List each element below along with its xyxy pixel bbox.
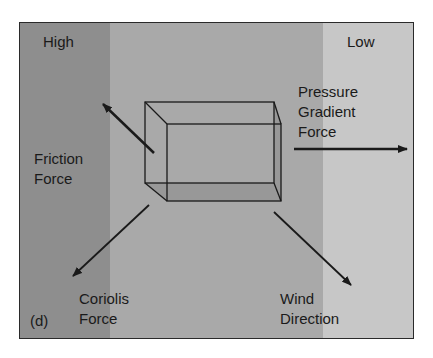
wind-direction-label-line1: Wind [280,289,314,309]
air-parcel-box [145,102,281,201]
wind-direction-label-line2: Direction [280,309,339,329]
friction-force-arrow [103,104,154,153]
pressure-gradient-label-line3: Force [298,122,336,142]
high-pressure-label: High [43,32,74,52]
coriolis-force-arrow [73,205,149,276]
friction-force-label-line2: Force [34,169,72,189]
low-pressure-label: Low [347,32,375,52]
coriolis-force-label-line2: Force [79,309,117,329]
coriolis-force-label-line1: Coriolis [79,289,129,309]
pressure-gradient-label-line2: Gradient [298,102,356,122]
pressure-gradient-label-line1: Pressure [298,82,358,102]
friction-force-label-line1: Friction [34,149,83,169]
panel-label: (d) [30,311,48,331]
wind-direction-arrow [274,212,351,285]
